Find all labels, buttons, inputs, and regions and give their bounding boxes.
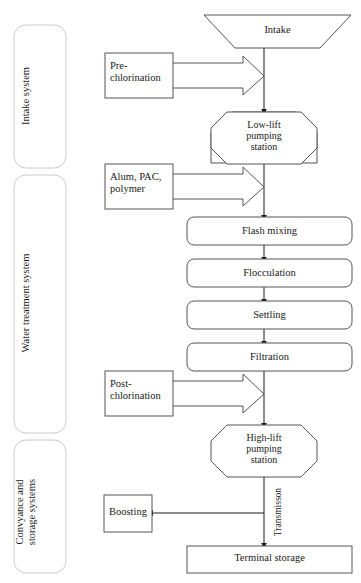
shape-flocculation[interactable] xyxy=(187,259,352,287)
group-containers xyxy=(14,25,66,573)
shape-high-lift-pumping-station[interactable] xyxy=(211,425,317,477)
group-box-treatment xyxy=(14,175,66,433)
shape-terminal-storage[interactable] xyxy=(187,546,352,573)
shape-pre-chlorination[interactable] xyxy=(105,53,173,98)
shape-flash-mixing[interactable] xyxy=(187,217,352,245)
shape-settling[interactable] xyxy=(187,301,352,329)
shape-boosting[interactable] xyxy=(104,495,152,532)
shape-post-chlorination[interactable] xyxy=(105,371,173,416)
group-box-conveyance xyxy=(14,440,66,573)
diagram-canvas xyxy=(0,0,361,583)
group-box-intake xyxy=(14,25,66,168)
shape-low-lift-octagon[interactable] xyxy=(211,112,317,164)
shape-intake[interactable] xyxy=(204,15,351,48)
node-shapes xyxy=(104,15,352,573)
process-flow-diagram: Intake system Water treatment system Con… xyxy=(0,0,361,583)
shape-filtration[interactable] xyxy=(187,343,352,371)
shape-coagulants[interactable] xyxy=(105,164,173,209)
